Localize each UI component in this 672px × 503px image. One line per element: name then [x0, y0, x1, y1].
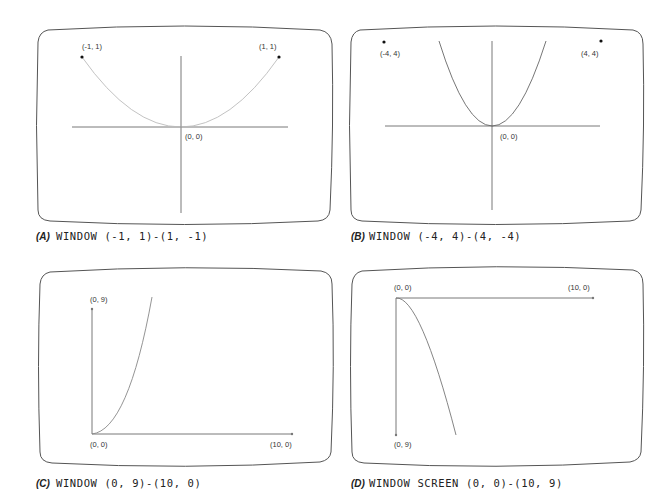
- crt-screen-outline: [351, 267, 644, 467]
- label-origin: (0, 0): [394, 283, 412, 292]
- panel-a: (-1, 1) (1, 1) (0, 0) (A) WINDOW (-1, 1)…: [36, 26, 333, 242]
- parabola-curve: [439, 41, 546, 126]
- point-right: [277, 55, 280, 58]
- label-origin: (0, 0): [90, 440, 108, 449]
- label-right-point: (10, 0): [270, 440, 292, 449]
- point-left: [80, 55, 83, 58]
- point-right: [599, 39, 602, 42]
- label-right-point: (10, 0): [568, 283, 590, 292]
- window-statement-diagram: (-1, 1) (1, 1) (0, 0) (A) WINDOW (-1, 1)…: [0, 0, 672, 503]
- panel-c: (0, 9) (0, 0) (10, 0) (C) WINDOW (0, 9)-…: [36, 268, 333, 489]
- caption-tag: (C): [36, 478, 51, 489]
- label-left-point: (-4, 4): [380, 49, 401, 58]
- label-top-point: (0, 9): [90, 295, 108, 304]
- caption-text: WINDOW (-4, 4)-(4, -4): [369, 230, 521, 242]
- caption-tag: (A): [36, 231, 51, 242]
- caption-text: WINDOW (-1, 1)-(1, -1): [56, 230, 208, 242]
- label-left-point: (-1, 1): [82, 42, 103, 51]
- crt-screen-outline: [39, 268, 334, 467]
- point-left: [382, 40, 385, 43]
- axis-end-top: [91, 308, 93, 310]
- axis-end-bottom: [395, 434, 397, 436]
- parabola-curve: [82, 57, 279, 127]
- parabola-curve: [396, 298, 456, 435]
- label-right-point: (4, 4): [581, 49, 599, 58]
- caption-text: WINDOW (0, 9)-(10, 0): [56, 477, 201, 489]
- panel-d: (0, 0) (10, 0) (0, 9) (D) WINDOW SCREEN …: [351, 267, 644, 489]
- label-origin: (0, 0): [185, 132, 203, 141]
- axis-end-right: [592, 297, 594, 299]
- caption-tag: (D): [351, 478, 366, 489]
- label-origin: (0, 0): [500, 132, 518, 141]
- caption-text: WINDOW SCREEN (0, 0)-(10, 9): [369, 477, 563, 489]
- caption-tag: (B): [351, 231, 366, 242]
- parabola-curve: [92, 297, 152, 434]
- panel-b: (-4, 4) (4, 4) (0, 0) (B) WINDOW (-4, 4)…: [350, 26, 644, 242]
- crt-screen-outline: [37, 26, 333, 225]
- label-bottom-point: (0, 9): [394, 440, 412, 449]
- label-right-point: (1, 1): [259, 42, 277, 51]
- axis-end-right: [291, 433, 293, 435]
